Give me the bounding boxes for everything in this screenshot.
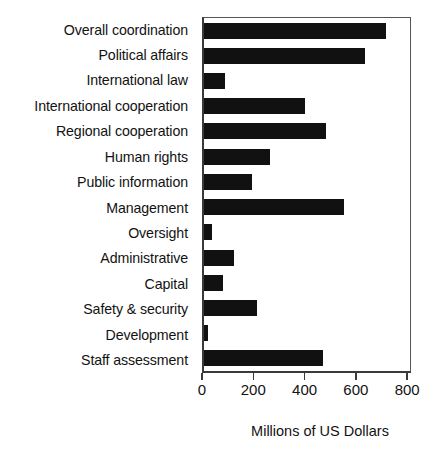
x-axis: 0200400600800 xyxy=(202,373,411,407)
bar-row xyxy=(204,220,410,245)
category-label: Political affairs xyxy=(0,42,196,67)
bar xyxy=(204,23,386,39)
category-label: Regional cooperation xyxy=(0,119,196,144)
bar-row xyxy=(204,94,410,119)
x-axis-tick xyxy=(253,373,255,380)
bar-row xyxy=(204,270,410,295)
x-axis-tick-label: 200 xyxy=(241,382,266,397)
bar xyxy=(204,250,234,266)
x-axis-tick xyxy=(406,373,408,380)
bar xyxy=(204,275,223,291)
category-label: Administrative xyxy=(0,246,196,271)
category-label: Public information xyxy=(0,170,196,195)
bar xyxy=(204,73,225,89)
bar-row xyxy=(204,169,410,194)
bar xyxy=(204,123,326,139)
category-label: Capital xyxy=(0,271,196,296)
category-label: Overall coordination xyxy=(0,17,196,42)
bar-row xyxy=(204,144,410,169)
bar-row xyxy=(204,18,410,43)
category-label: International law xyxy=(0,68,196,93)
x-axis-tick-label: 0 xyxy=(198,382,206,397)
bar xyxy=(204,325,208,341)
x-axis-title: Millions of US Dollars xyxy=(202,424,438,439)
category-label: Oversight xyxy=(0,220,196,245)
bar-row xyxy=(204,68,410,93)
bar xyxy=(204,300,257,316)
bar-row xyxy=(204,295,410,320)
bar-row xyxy=(204,119,410,144)
x-axis-tick-label: 400 xyxy=(292,382,317,397)
bar xyxy=(204,149,270,165)
bar-row xyxy=(204,43,410,68)
x-axis-tick-label: 800 xyxy=(395,382,420,397)
x-axis-tick-label: 600 xyxy=(343,382,368,397)
bar xyxy=(204,224,212,240)
plot-area xyxy=(202,17,411,373)
category-label: Development xyxy=(0,322,196,347)
category-label: International cooperation xyxy=(0,93,196,118)
category-label: Management xyxy=(0,195,196,220)
bar xyxy=(204,199,344,215)
bar-row xyxy=(204,195,410,220)
category-axis-labels: Overall coordination Political affairs I… xyxy=(0,17,196,373)
category-label: Human rights xyxy=(0,144,196,169)
bar-row xyxy=(204,245,410,270)
bar xyxy=(204,48,365,64)
x-axis-tick xyxy=(355,373,357,380)
category-label: Safety & security xyxy=(0,297,196,322)
bars-container xyxy=(204,18,410,371)
x-axis-tick xyxy=(201,373,203,380)
bar-row xyxy=(204,346,410,371)
x-axis-tick xyxy=(304,373,306,380)
bar-row xyxy=(204,321,410,346)
bar xyxy=(204,174,252,190)
category-label: Staff assessment xyxy=(0,347,196,372)
bar xyxy=(204,98,305,114)
bar xyxy=(204,350,323,366)
bar-chart: Overall coordination Political affairs I… xyxy=(0,0,438,456)
